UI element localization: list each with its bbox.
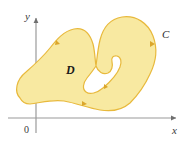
x-axis-label: x — [171, 124, 177, 136]
origin-label: 0 — [24, 124, 29, 135]
region-label-d: D — [65, 63, 75, 77]
vector-figure: D C y x 0 — [0, 0, 193, 144]
curve-label-c: C — [162, 28, 170, 40]
figure-container: D C y x 0 — [0, 0, 193, 144]
region-d-group — [17, 17, 156, 111]
y-axis-label: y — [24, 10, 30, 22]
curve-c-path — [17, 17, 156, 111]
